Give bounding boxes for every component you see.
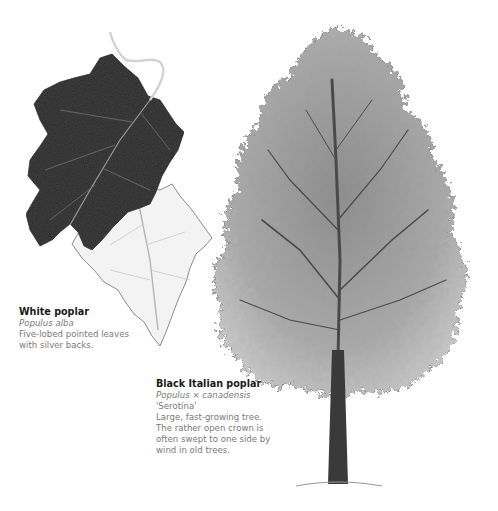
black-italian-poplar-cultivar: 'Serotina' — [156, 401, 306, 412]
black-italian-poplar-description-line: Large, fast-growing tree. — [156, 412, 306, 423]
black-italian-poplar-title: Black Italian poplar — [156, 377, 306, 390]
white-poplar-caption: White poplar Populus alba Five-lobed poi… — [19, 305, 159, 351]
black-italian-poplar-description-line: wind in old trees. — [156, 445, 306, 456]
white-poplar-title: White poplar — [19, 305, 159, 318]
black-italian-poplar-latin-name: Populus × canadensis — [156, 390, 306, 401]
white-poplar-description-line: with silver backs. — [19, 340, 159, 351]
white-poplar-description-line: Five-lobed pointed leaves — [19, 329, 159, 340]
black-italian-poplar-caption: Black Italian poplar Populus × canadensi… — [156, 377, 306, 456]
white-poplar-latin-name: Populus alba — [19, 318, 159, 329]
black-italian-poplar-description-line: often swept to one side by — [156, 434, 306, 445]
black-italian-poplar-description-line: The rather open crown is — [156, 423, 306, 434]
